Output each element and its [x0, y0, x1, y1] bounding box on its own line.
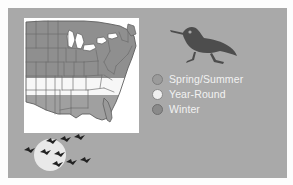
legend-label-winter: Winter	[169, 104, 200, 115]
legend-label-year-round: Year-Round	[169, 89, 226, 100]
migrating-flock	[22, 132, 112, 176]
legend-item-spring-summer[interactable]: Spring/Summer	[152, 72, 282, 87]
figure-root: Spring/Summer Year-Round Winter	[0, 0, 293, 185]
shorebird-silhouette	[168, 22, 240, 66]
legend-item-winter[interactable]: Winter	[152, 102, 282, 117]
legend-swatch-spring-summer	[152, 74, 163, 85]
legend-swatch-winter	[152, 104, 163, 115]
bird-eye-icon	[188, 30, 191, 33]
legend-label-spring-summer: Spring/Summer	[169, 74, 243, 85]
legend-swatch-year-round	[152, 89, 163, 100]
map-legend: Spring/Summer Year-Round Winter	[152, 72, 282, 117]
us-range-map	[24, 18, 139, 133]
legend-item-year-round[interactable]: Year-Round	[152, 87, 282, 102]
